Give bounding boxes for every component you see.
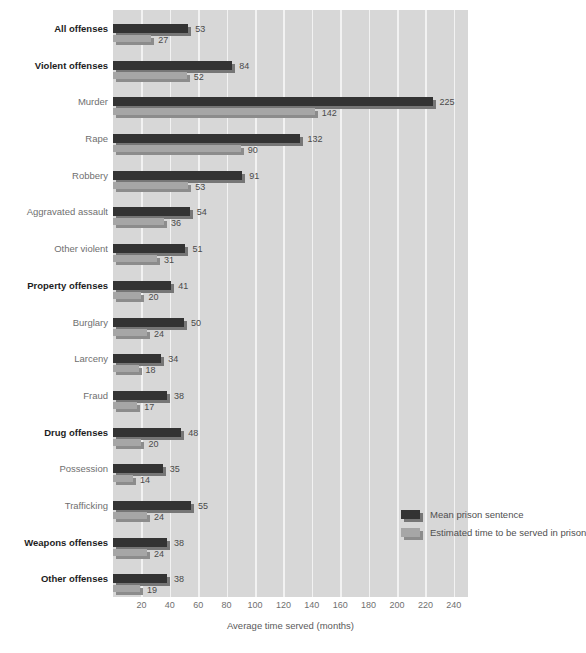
bar-value-label: 142 bbox=[322, 109, 337, 118]
bar-dark bbox=[113, 574, 167, 583]
x-tick-label-40: 40 bbox=[165, 601, 175, 610]
category-label-property-offenses: Property offenses bbox=[0, 281, 108, 291]
bar-value-label: 35 bbox=[170, 465, 180, 474]
category-label-larceny: Larceny bbox=[0, 354, 108, 364]
category-label-possession: Possession bbox=[0, 464, 108, 474]
bar-value-label: 24 bbox=[154, 513, 164, 522]
bar-light bbox=[113, 585, 140, 592]
x-tick-label-60: 60 bbox=[193, 601, 203, 610]
bar-light bbox=[113, 182, 188, 189]
x-tick-label-220: 220 bbox=[418, 601, 433, 610]
bar-dark bbox=[113, 97, 433, 106]
bar-light bbox=[113, 475, 133, 482]
x-tick-label-160: 160 bbox=[333, 601, 348, 610]
bar-light bbox=[113, 329, 147, 336]
x-tick-label-200: 200 bbox=[389, 601, 404, 610]
x-tick-label-120: 120 bbox=[276, 601, 291, 610]
bar-value-label: 38 bbox=[174, 539, 184, 548]
category-label-burglary: Burglary bbox=[0, 318, 108, 328]
bar-light bbox=[113, 549, 147, 556]
x-tick-label-180: 180 bbox=[361, 601, 376, 610]
bar-dark bbox=[113, 501, 191, 510]
legend-swatch-dark-icon bbox=[401, 510, 420, 519]
bar-light bbox=[113, 72, 187, 79]
legend-label: Estimated time to be served in prison bbox=[430, 526, 586, 539]
bar-dark bbox=[113, 538, 167, 547]
bar-light bbox=[113, 255, 157, 262]
bar-value-label: 19 bbox=[147, 586, 157, 595]
bar-value-label: 27 bbox=[158, 36, 168, 45]
bar-row: 5131 bbox=[113, 230, 468, 267]
plot-area: 5327845222514213290915354365131412050243… bbox=[113, 10, 468, 597]
x-axis-ticks: 20406080100120140160180200220240 bbox=[113, 601, 468, 615]
bar-row: 4120 bbox=[113, 267, 468, 304]
bar-value-label: 34 bbox=[168, 355, 178, 364]
bar-dark bbox=[113, 391, 167, 400]
bar-light bbox=[113, 35, 151, 42]
category-label-rape: Rape bbox=[0, 134, 108, 144]
bar-row: 3418 bbox=[113, 340, 468, 377]
bar-row: 225142 bbox=[113, 83, 468, 120]
bar-row: 13290 bbox=[113, 120, 468, 157]
bar-dark bbox=[113, 61, 232, 70]
bar-light bbox=[113, 439, 141, 446]
category-label-other-violent: Other violent bbox=[0, 244, 108, 254]
bar-dark bbox=[113, 281, 171, 290]
bar-value-label: 20 bbox=[148, 293, 158, 302]
bar-value-label: 48 bbox=[188, 429, 198, 438]
category-label-murder: Murder bbox=[0, 97, 108, 107]
bar-value-label: 52 bbox=[194, 73, 204, 82]
category-label-other-offenses: Other offenses bbox=[0, 574, 108, 584]
bar-value-label: 84 bbox=[239, 62, 249, 71]
bar-row: 3817 bbox=[113, 377, 468, 414]
bar-value-label: 225 bbox=[440, 98, 455, 107]
bar-value-label: 24 bbox=[154, 550, 164, 559]
x-tick-label-240: 240 bbox=[446, 601, 461, 610]
x-tick-label-20: 20 bbox=[136, 601, 146, 610]
category-label-trafficking: Trafficking bbox=[0, 501, 108, 511]
category-label-all-offenses: All offenses bbox=[0, 24, 108, 34]
bar-dark bbox=[113, 318, 184, 327]
bar-row: 4820 bbox=[113, 414, 468, 451]
bar-light bbox=[113, 512, 147, 519]
bar-row: 5327 bbox=[113, 10, 468, 47]
category-label-robbery: Robbery bbox=[0, 171, 108, 181]
bar-row: 3514 bbox=[113, 450, 468, 487]
bar-value-label: 24 bbox=[154, 330, 164, 339]
bar-value-label: 41 bbox=[178, 282, 188, 291]
bar-value-label: 36 bbox=[171, 219, 181, 228]
bar-value-label: 38 bbox=[174, 575, 184, 584]
bar-value-label: 50 bbox=[191, 319, 201, 328]
legend-label: Mean prison sentence bbox=[430, 508, 523, 521]
bar-row: 5436 bbox=[113, 193, 468, 230]
x-tick-label-140: 140 bbox=[304, 601, 319, 610]
bar-dark bbox=[113, 244, 185, 253]
bar-value-label: 53 bbox=[195, 25, 205, 34]
bar-value-label: 31 bbox=[164, 256, 174, 265]
bar-light bbox=[113, 365, 139, 372]
bar-dark bbox=[113, 171, 242, 180]
bar-value-label: 38 bbox=[174, 392, 184, 401]
bar-light bbox=[113, 108, 315, 115]
bar-row: 8452 bbox=[113, 47, 468, 84]
bar-dark bbox=[113, 428, 181, 437]
bar-value-label: 90 bbox=[248, 146, 258, 155]
bar-value-label: 91 bbox=[249, 172, 259, 181]
bar-value-label: 54 bbox=[197, 208, 207, 217]
bar-value-label: 51 bbox=[192, 245, 202, 254]
bar-light bbox=[113, 145, 241, 152]
bar-light bbox=[113, 292, 141, 299]
bar-dark bbox=[113, 354, 161, 363]
bar-light bbox=[113, 402, 137, 409]
bar-dark bbox=[113, 24, 188, 33]
bar-row: 3819 bbox=[113, 560, 468, 597]
bar-value-label: 14 bbox=[140, 476, 150, 485]
category-label-fraud: Fraud bbox=[0, 391, 108, 401]
category-label-aggravated-assault: Aggravated assault bbox=[0, 207, 108, 217]
category-label-weapons-offenses: Weapons offenses bbox=[0, 538, 108, 548]
x-axis-title: Average time served (months) bbox=[113, 620, 468, 631]
bar-value-label: 53 bbox=[195, 183, 205, 192]
bar-value-label: 132 bbox=[307, 135, 322, 144]
bar-row: 9153 bbox=[113, 157, 468, 194]
